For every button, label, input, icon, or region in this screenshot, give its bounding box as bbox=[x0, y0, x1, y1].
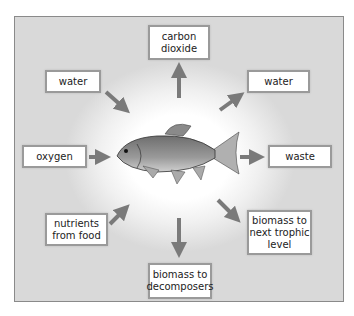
arrow-nutrients bbox=[110, 210, 124, 224]
fish-illustration bbox=[113, 120, 243, 190]
box-biomass-trophic: biomass to next trophic level bbox=[247, 210, 312, 255]
box-water-in: water bbox=[45, 70, 101, 93]
box-waste: waste bbox=[268, 145, 332, 168]
arrow-water-out bbox=[220, 97, 238, 110]
arrow-biomass-trophic bbox=[218, 200, 235, 217]
box-carbon-dioxide: carbon dioxide bbox=[148, 25, 210, 60]
arrow-water-in bbox=[106, 92, 124, 108]
box-oxygen: oxygen bbox=[22, 145, 87, 168]
box-nutrients: nutrients from food bbox=[45, 213, 108, 246]
box-water-out: water bbox=[247, 70, 310, 93]
box-biomass-decomposers: biomass to decomposers bbox=[148, 263, 212, 299]
